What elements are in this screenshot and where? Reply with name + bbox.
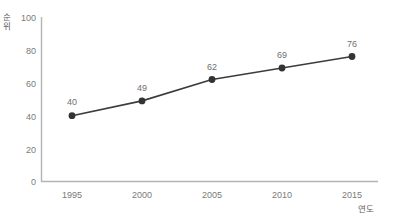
line-chart: 순위 100 80 60 40 20 0 40 49 62 69 76 1995…: [0, 0, 395, 224]
data-point-1995: [69, 112, 76, 119]
data-point-2015: [349, 53, 356, 60]
data-point-2000: [139, 97, 146, 104]
data-point-2005: [209, 76, 216, 83]
x-tick-label-2000: 2000: [122, 190, 162, 200]
data-label-2000: 49: [127, 83, 157, 93]
x-tick-label-2010: 2010: [262, 190, 302, 200]
data-label-2015: 76: [337, 39, 367, 49]
data-label-1995: 40: [57, 97, 87, 107]
x-tick-label-1995: 1995: [52, 190, 92, 200]
data-point-2010: [279, 65, 286, 72]
x-tick-label-2015: 2015: [332, 190, 372, 200]
x-axis-title: 연도: [358, 205, 374, 214]
x-tick-label-2005: 2005: [192, 190, 232, 200]
data-label-2005: 62: [197, 62, 227, 72]
data-label-2010: 69: [267, 50, 297, 60]
